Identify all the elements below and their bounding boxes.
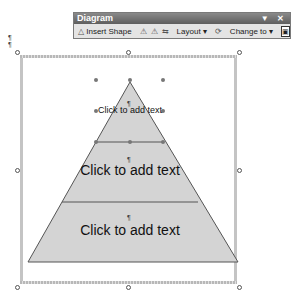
paragraph-mark: ¶ <box>127 214 131 221</box>
pyramid-middle-label[interactable]: Click to add text <box>60 162 200 178</box>
pyramid-bottom-label[interactable]: Click to add text <box>60 222 200 238</box>
pyramid-top-label[interactable]: Click to add text <box>80 105 180 115</box>
pyramid-diagram[interactable] <box>0 0 295 304</box>
